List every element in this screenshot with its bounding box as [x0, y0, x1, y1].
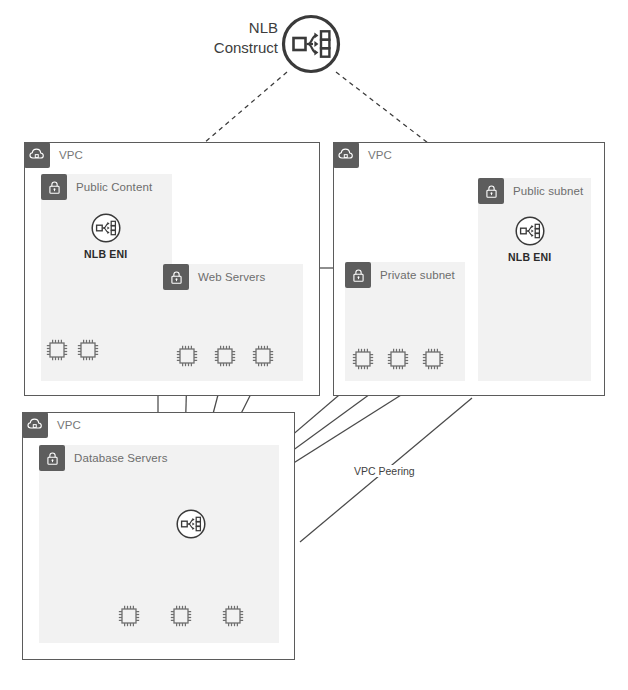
node-priv-ec2-1 [349, 345, 377, 373]
subnet-public-subnet-header: Public subnet [478, 178, 583, 204]
node-web-ec2-1 [173, 342, 201, 370]
ec2-instance-icon [219, 602, 247, 630]
vpc-cloud-icon [22, 412, 48, 438]
nlb-eni-icon [90, 212, 122, 244]
vpc-bottom-label: VPC [57, 419, 81, 431]
node-pc-ec2-1 [43, 336, 71, 364]
nlb-title-line1: NLB [186, 18, 278, 38]
node-db-ec2-3 [219, 602, 247, 630]
node-nlb-eni-right-label: NLB ENI [508, 251, 551, 263]
vpc-left-header: VPC [24, 142, 83, 168]
ec2-instance-icon [419, 345, 447, 373]
ec2-instance-icon [167, 602, 195, 630]
ec2-instance-icon [115, 602, 143, 630]
vpc-cloud-icon [333, 142, 359, 168]
nlb-eni-icon [175, 508, 207, 540]
ec2-instance-icon [249, 342, 277, 370]
subnet-public-content-header: Public Content [41, 174, 152, 200]
node-web-ec2-2 [211, 342, 239, 370]
subnet-database-servers-label: Database Servers [74, 452, 168, 464]
diagram-canvas: NLB Construct VPC [0, 0, 628, 690]
nlb-title-line2: Construct [186, 38, 278, 58]
subnet-public-content-label: Public Content [76, 181, 152, 193]
subnet-public-subnet-label: Public subnet [513, 185, 583, 197]
ec2-instance-icon [384, 345, 412, 373]
page-title: NLB Construct [186, 18, 278, 59]
node-db-ec2-2 [167, 602, 195, 630]
vpc-bottom-header: VPC [22, 412, 81, 438]
ec2-instance-icon [173, 342, 201, 370]
vpc-left-label: VPC [59, 149, 83, 161]
subnet-private-subnet-label: Private subnet [380, 269, 455, 281]
ec2-instance-icon [211, 342, 239, 370]
nlb-eni-icon [514, 215, 546, 247]
lock-icon [163, 264, 189, 290]
ec2-instance-icon [43, 336, 71, 364]
lock-icon [39, 445, 65, 471]
subnet-web-servers-header: Web Servers [163, 264, 265, 290]
network-load-balancer-icon [281, 14, 341, 78]
lock-icon [41, 174, 67, 200]
node-nlb-eni-db [175, 508, 207, 540]
node-priv-ec2-2 [384, 345, 412, 373]
node-nlb-eni-right: NLB ENI [508, 215, 551, 263]
node-pc-ec2-2 [74, 336, 102, 364]
lock-icon [345, 262, 371, 288]
subnet-database-servers-header: Database Servers [39, 445, 168, 471]
node-nlb-eni-left: NLB ENI [84, 212, 127, 260]
subnet-public-subnet [478, 178, 591, 381]
vpc-cloud-icon [24, 142, 50, 168]
ec2-instance-icon [349, 345, 377, 373]
node-nlb-eni-left-label: NLB ENI [84, 248, 127, 260]
ec2-instance-icon [74, 336, 102, 364]
node-db-ec2-1 [115, 602, 143, 630]
node-priv-ec2-3 [419, 345, 447, 373]
vpc-peering-label: VPC Peering [352, 465, 417, 477]
node-web-ec2-3 [249, 342, 277, 370]
vpc-right-header: VPC [333, 142, 392, 168]
vpc-right-label: VPC [368, 149, 392, 161]
subnet-web-servers-label: Web Servers [198, 271, 265, 283]
lock-icon [478, 178, 504, 204]
subnet-private-subnet-header: Private subnet [345, 262, 455, 288]
